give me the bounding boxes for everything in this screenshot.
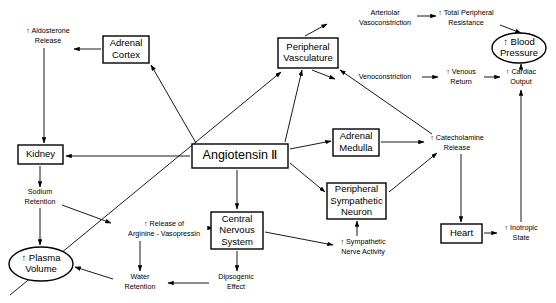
label-aldosterone-line2: Release [35,36,61,45]
label-arginine_vaso-line2: Arginine - Vasopressin [128,229,200,238]
label-adrenal_cortex-line1: Adrenal [110,37,143,48]
node-arginine_vaso: ↑ Release ofArginine - Vasopressin [128,219,200,238]
label-adrenal_medulla-line2: Medulla [339,142,373,153]
label-peripheral_vasc-line2: Vasculature [283,52,332,63]
label-cns-line1: Central [222,213,253,224]
label-inotropic_state-line1: ↑ Inotropic [504,223,538,232]
label-periph_symp_neuron-line3: Neuron [341,206,372,217]
label-kidney: Kidney [26,148,55,159]
node-angiotensin_ii[interactable]: Angiotensin Ⅱ [192,144,288,168]
node-total_periph_res: ↑ Total PeripheralResistance [438,8,494,27]
node-blood_pressure[interactable]: ↑ BloodPressure [492,33,546,63]
edge-peripheral_vasc-to-arteriolar_vaso [305,24,327,36]
label-total_periph_res-line1: ↑ Total Peripheral [438,8,494,17]
label-arteriolar_vaso-line1: Arteriolar [370,8,400,17]
node-arteriolar_vaso: ArteriolarVasoconstriction [359,8,411,27]
node-peripheral_vasc[interactable]: PeripheralVasculature [278,38,338,68]
node-heart[interactable]: Heart [441,224,482,243]
edge-sodium_retention-to-arginine_vaso [62,205,111,223]
label-blood_pressure-line2: Pressure [500,47,538,58]
edge-periph_symp_neuron-to-catecholamine [389,153,437,192]
label-dipsogenic-line1: Dipsogenic [218,272,254,281]
node-inotropic_state: ↑ InotropicState [504,223,538,242]
label-water_retention-line1: Water [131,272,151,281]
edge-angiotensin_ii-to-peripheral_vasc [285,70,302,142]
label-venous_return-line1: ↑ Venous [446,67,476,76]
label-aldosterone-line1: ↑ Aldosterone [26,26,70,35]
edge-angiotensin_ii-to-adrenal_medulla [290,141,331,149]
node-sodium_retention: SodiumRetention [25,187,56,206]
node-water_retention: WaterRetention [125,272,156,291]
label-angiotensin_ii: Angiotensin Ⅱ [203,148,278,162]
label-periph_symp_neuron-line1: Peripheral [335,183,378,194]
label-arteriolar_vaso-line2: Vasoconstriction [359,18,411,27]
edge-cns-to-sympathetic_act [265,232,333,245]
label-sodium_retention-line1: Sodium [28,187,52,196]
label-cardiac_output-line2: Output [510,77,532,86]
node-adrenal_cortex[interactable]: AdrenalCortex [103,36,149,63]
flow-diagram-svg: ↑ AldosteroneReleaseAdrenalCortexKidneyS… [0,0,556,303]
label-cns-line2: Nervous [219,224,255,235]
label-venous_return-line2: Return [450,77,472,86]
label-adrenal_medulla-line1: Adrenal [340,130,373,141]
label-cns-line3: System [221,236,253,247]
label-plasma_volume-line2: Volume [25,263,57,274]
label-peripheral_vasc-line1: Peripheral [286,41,329,52]
node-venoconstriction: Venoconstriction [359,72,412,81]
label-sodium_retention-line2: Retention [25,197,56,206]
label-arginine_vaso-line1: ↑ Release of [144,219,184,228]
edge-angiotensin_ii-to-periph_symp_neuron [290,163,325,192]
node-kidney[interactable]: Kidney [18,145,63,164]
node-periph_symp_neuron[interactable]: PeripheralSympatheticNeuron [327,183,386,219]
label-adrenal_cortex-line2: Cortex [112,49,140,60]
node-cns[interactable]: CentralNervousSystem [211,212,263,249]
edge-peripheral_vasc-to-venoconstriction [312,70,335,79]
label-water_retention-line2: Retention [125,282,156,291]
label-heart: Heart [450,227,474,238]
label-periph_symp_neuron-line2: Sympathetic [330,195,383,206]
label-blood_pressure-line1: ↑ Blood [503,36,535,47]
label-catecholamine-line1: ↑ Catecholamine [430,133,484,142]
node-aldosterone: ↑ AldosteroneRelease [26,26,70,45]
node-venous_return: ↑ VenousReturn [446,67,476,86]
node-catecholamine: ↑ CatecholamineRelease [430,133,484,152]
edge-angiotensin_ii-to-adrenal_cortex [151,65,196,143]
node-sympathetic_act: ↑ SympatheticNerve Activity [340,237,386,256]
label-plasma_volume-line1: ↑ Plasma [21,252,61,263]
label-total_periph_res-line2: Resistance [448,18,484,27]
edge-total_periph_res-to-blood_pressure [500,25,521,33]
label-cardiac_output-line1: ↑ Cardiac [506,67,537,76]
edge-water_retention-to-plasma_volume [75,267,113,279]
label-venoconstriction: Venoconstriction [359,72,412,81]
node-adrenal_medulla[interactable]: AdrenalMedulla [333,129,379,156]
label-catecholamine-line2: Release [444,143,470,152]
label-sympathetic_act-line2: Nerve Activity [341,247,385,256]
label-sympathetic_act-line1: ↑ Sympathetic [340,237,386,246]
label-inotropic_state-line2: State [513,233,530,242]
node-cardiac_output: ↑ CardiacOutput [506,67,537,86]
node-dipsogenic: DipsogenicEffect [218,272,254,291]
label-dipsogenic-line2: Effect [227,282,245,291]
diagram-canvas: ↑ AldosteroneReleaseAdrenalCortexKidneyS… [0,0,556,303]
node-layer: ↑ AldosteroneReleaseAdrenalCortexKidneyS… [9,8,546,291]
node-plasma_volume[interactable]: ↑ PlasmaVolume [9,247,73,281]
